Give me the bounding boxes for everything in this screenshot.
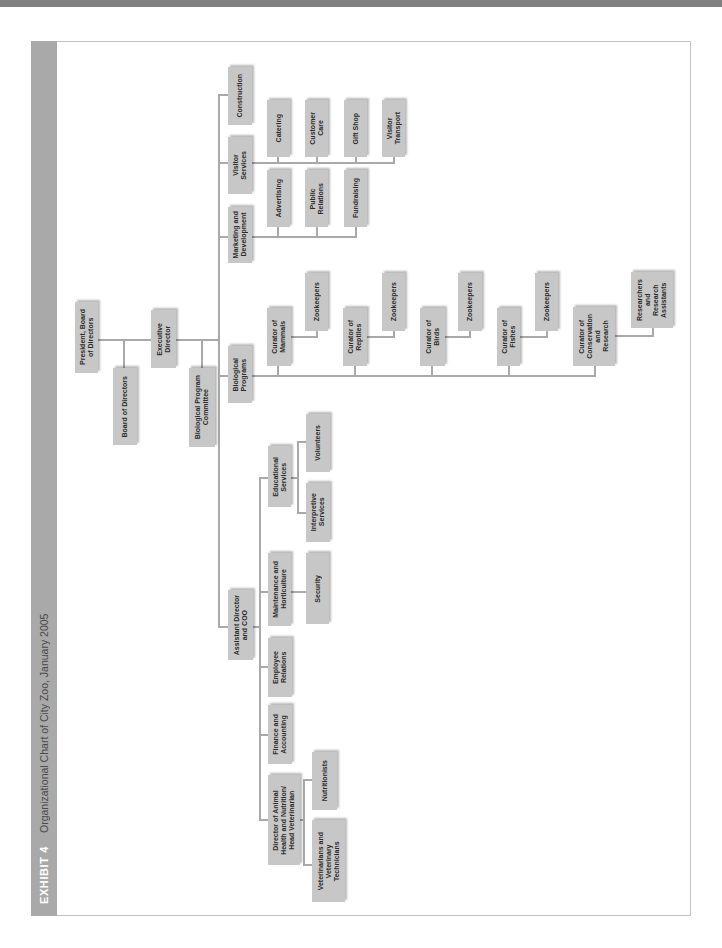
org-node-interpretive-services: Interpretive Services — [306, 483, 330, 542]
connector-line — [252, 162, 395, 164]
org-node-president: President, Board of Directors — [75, 302, 98, 373]
connector-line — [445, 336, 471, 338]
org-node-public-relations: Public Relations — [305, 170, 328, 227]
node-label: Construction — [236, 74, 244, 118]
node-label: Fundraising — [352, 178, 360, 218]
node-label: Biological Program Committee — [194, 375, 210, 439]
connector-line — [277, 365, 279, 376]
node-label: Zookeepers — [313, 282, 321, 321]
connector-line — [546, 330, 548, 337]
node-label: Executive Director — [156, 323, 172, 356]
connector-line — [259, 734, 268, 736]
node-label: Finance and Accounting — [272, 714, 288, 755]
org-node-director-animal-health: Director of Animal Health and Nutrition/… — [268, 775, 300, 865]
org-node-zookeepers: Zookeepers — [382, 273, 405, 331]
org-node-visitor-services: Visitor Services — [228, 137, 252, 194]
org-node-biological-program-committee: Biological Program Committee — [189, 368, 215, 447]
org-node-finance-accounting: Finance and Accounting — [268, 705, 292, 764]
node-label: Board of Directors — [121, 376, 129, 437]
connector-line — [277, 156, 279, 163]
connector-line — [355, 156, 357, 163]
connector-line — [520, 336, 548, 338]
connector-line — [431, 365, 433, 376]
org-node-zookeepers: Zookeepers — [458, 273, 482, 331]
connector-line — [297, 512, 306, 514]
org-node-executive-director: Executive Director — [151, 310, 176, 368]
org-node-researchers: Researchers and Research Assistants — [631, 272, 673, 328]
connector-line — [652, 327, 654, 336]
connector-line — [469, 330, 471, 337]
connector-line — [277, 226, 279, 237]
connector-line — [252, 236, 357, 238]
node-label: Curator of Reptiles — [347, 320, 363, 354]
connector-line — [291, 591, 306, 593]
connector-line — [316, 226, 318, 237]
exhibit-heading: EXHIBIT 4Organizational Chart of City Zo… — [31, 41, 57, 916]
connector-line — [300, 819, 304, 821]
connector-line — [303, 779, 312, 781]
connector-line — [354, 365, 356, 376]
node-label: Gift Shop — [352, 113, 360, 145]
node-label: President, Board of Directors — [79, 309, 95, 365]
node-label: Zookeepers — [466, 282, 474, 321]
org-node-curator-fishes: Curator of Fishes — [497, 308, 520, 366]
connector-line — [303, 864, 312, 866]
node-label: Veterinarians and Veterinary Technicians — [317, 832, 341, 890]
node-label: Visitor Services — [232, 151, 248, 180]
node-label: Employee Relations — [272, 651, 288, 684]
node-label: Customer Care — [309, 112, 325, 145]
org-node-security: Security — [306, 553, 329, 624]
connector-line — [615, 335, 654, 337]
org-node-visitor-transport: Visitor Transport — [382, 100, 405, 157]
connector-line — [393, 156, 395, 163]
node-label: Catering — [275, 114, 283, 142]
connector-line — [316, 156, 318, 163]
top-strip — [0, 0, 722, 7]
connector-line — [303, 779, 305, 866]
node-label: Marketing and Development — [232, 211, 248, 258]
node-label: Maintenance and Horticulture — [272, 561, 288, 618]
org-node-marketing-development: Marketing and Development — [228, 207, 252, 263]
exhibit-title: Organizational Chart of City Zoo, Januar… — [38, 614, 50, 833]
node-label: Assistant Director and COO — [233, 595, 249, 655]
node-label: Curator of Mammals — [271, 320, 287, 354]
org-node-biological-programs: Biological Programs — [228, 346, 252, 403]
connector-line — [218, 236, 228, 238]
connector-line — [393, 330, 395, 337]
connector-line — [355, 226, 357, 237]
connector-trunk — [218, 94, 220, 628]
org-node-zookeepers: Zookeepers — [535, 273, 558, 331]
org-node-zookeepers: Zookeepers — [305, 273, 328, 331]
org-node-veterinarians: Veterinarians and Veterinary Technicians — [312, 820, 345, 902]
org-node-construction: Construction — [228, 67, 252, 125]
org-node-fundraising: Fundraising — [344, 170, 367, 227]
node-label: Curator of Conservation and Research — [578, 314, 610, 359]
exhibit-label: EXHIBIT 4 — [38, 846, 50, 904]
connector-line — [259, 477, 261, 821]
connector-line — [218, 626, 228, 628]
org-node-gift-shop: Gift Shop — [344, 100, 367, 157]
org-node-advertising: Advertising — [267, 170, 290, 227]
node-label: Nutritionists — [321, 760, 329, 801]
org-node-volunteers: Volunteers — [306, 414, 330, 472]
node-label: Researchers and Research Assistants — [636, 279, 668, 321]
connector-line — [316, 330, 318, 337]
connector-line — [123, 340, 125, 368]
node-label: Director of Animal Health and Nutrition/… — [272, 786, 296, 855]
node-label: Advertising — [275, 179, 283, 218]
node-label: Security — [314, 575, 322, 603]
org-node-educational-services: Educational Services — [268, 446, 291, 507]
org-node-curator-birds: Curator of Birds — [420, 308, 445, 366]
org-node-catering: Catering — [267, 100, 290, 157]
connector-line — [508, 365, 510, 376]
connector-line — [259, 477, 268, 479]
org-node-curator-mammals: Curator of Mammals — [267, 308, 291, 366]
connector-line — [297, 441, 306, 443]
org-node-curator-reptiles: Curator of Reptiles — [343, 308, 367, 366]
org-node-customer-care: Customer Care — [305, 100, 328, 157]
connector-line — [252, 375, 596, 377]
node-label: Zookeepers — [543, 282, 551, 321]
connector-line — [367, 336, 395, 338]
org-node-board-of-directors: Board of Directors — [113, 368, 137, 445]
org-node-curator-conservation-research: Curator of Conservation and Research — [573, 307, 615, 366]
